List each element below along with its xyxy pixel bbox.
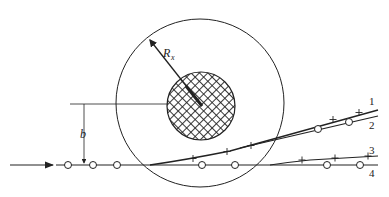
impact-parameter-label: b xyxy=(80,127,86,141)
track-1-label: 1 xyxy=(369,95,375,107)
svg-text:R: R xyxy=(162,46,171,60)
track-2-line xyxy=(240,116,378,148)
track-4-label: 4 xyxy=(369,167,375,179)
scattering-diagram: R x b xyxy=(0,0,389,197)
track-2-label: 2 xyxy=(369,119,375,131)
svg-text:x: x xyxy=(170,53,175,62)
radius-label: R x xyxy=(162,46,175,62)
track-3-label: 3 xyxy=(369,144,375,156)
